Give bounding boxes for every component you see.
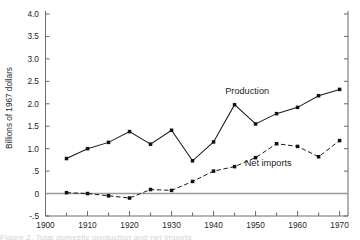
x-tick-label: 1900 — [36, 220, 55, 230]
data-point-marker — [149, 142, 153, 146]
data-point-marker — [65, 157, 69, 161]
chart-figure: 4.03.53.02.52.01.51.0.50-.5 190019101920… — [0, 0, 360, 240]
right-axis-tickmarks — [344, 14, 348, 216]
data-point-marker — [212, 169, 216, 173]
y-tick-label: 3.0 — [27, 54, 39, 64]
x-tick-label: 1960 — [288, 220, 307, 230]
data-point-marker — [275, 112, 279, 116]
series-line — [67, 141, 340, 198]
x-tick-label: 1970 — [330, 220, 349, 230]
series-annotation: Net imports — [245, 158, 292, 168]
data-point-marker — [149, 188, 153, 192]
data-point-marker — [338, 88, 342, 92]
y-axis-tick-labels: 4.03.53.02.52.01.51.0.50-.5 — [27, 9, 39, 221]
x-tick-label: 1950 — [246, 220, 265, 230]
data-point-marker — [170, 129, 174, 133]
data-point-marker — [233, 165, 237, 169]
data-point-marker — [191, 180, 195, 184]
series-layer — [65, 88, 342, 200]
data-point-marker — [317, 94, 321, 98]
data-point-marker — [338, 139, 342, 143]
y-tick-label: .5 — [32, 166, 39, 176]
series-production — [65, 88, 342, 163]
data-point-marker — [296, 106, 300, 110]
series-line — [67, 89, 340, 160]
x-tick-label: 1930 — [162, 220, 181, 230]
data-point-marker — [254, 122, 258, 126]
data-point-marker — [212, 140, 216, 144]
y-tick-label: 1.0 — [27, 144, 39, 154]
series-net-imports — [65, 139, 342, 200]
data-point-marker — [233, 103, 237, 107]
data-point-marker — [86, 147, 90, 151]
data-point-marker — [128, 196, 131, 200]
data-point-marker — [191, 159, 195, 163]
data-point-marker — [86, 192, 90, 196]
data-point-marker — [296, 145, 300, 149]
figure-caption-partial: Figure 2. Total domestic production and … — [0, 233, 360, 240]
data-point-marker — [128, 130, 131, 134]
data-point-marker — [65, 191, 69, 195]
y-tick-label: 3.5 — [27, 31, 39, 41]
data-point-marker — [107, 194, 111, 198]
data-point-marker — [275, 142, 279, 146]
y-axis-tickmarks — [46, 14, 50, 216]
x-tick-label: 1920 — [120, 220, 139, 230]
x-axis-tickmarks — [46, 211, 340, 216]
y-tick-label: 2.0 — [27, 99, 39, 109]
data-point-marker — [170, 189, 174, 193]
series-annotation: Production — [225, 86, 269, 96]
line-chart: 4.03.53.02.52.01.51.0.50-.5 190019101920… — [0, 0, 360, 240]
y-axis-title: Billions of 1967 dollars — [5, 67, 14, 149]
x-axis-tick-labels: 19001910192019301940195019601970 — [36, 220, 349, 230]
y-tick-label: 0 — [34, 189, 39, 199]
y-tick-label: 4.0 — [27, 9, 39, 19]
x-tick-label: 1940 — [204, 220, 223, 230]
data-point-marker — [107, 141, 111, 145]
data-point-marker — [317, 155, 321, 159]
y-tick-label: 1.5 — [27, 121, 39, 131]
y-tick-label: 2.5 — [27, 76, 39, 86]
x-tick-label: 1910 — [78, 220, 97, 230]
